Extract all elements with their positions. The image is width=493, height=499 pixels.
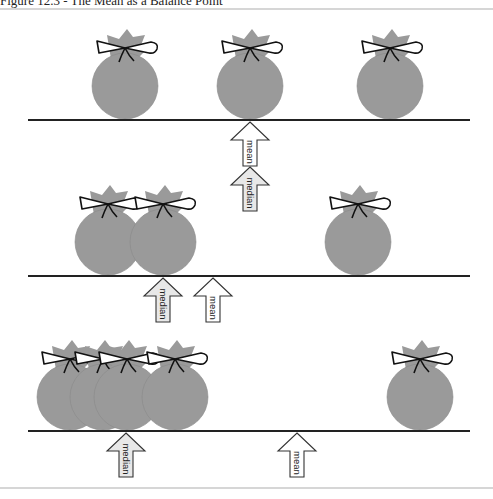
mean-label: mean <box>208 296 219 320</box>
money-bag-icon <box>387 340 453 430</box>
median-label: median <box>121 443 132 474</box>
mean-arrow-icon: mean <box>194 278 232 322</box>
money-bag-icon <box>142 340 208 430</box>
median-label: median <box>158 288 169 319</box>
median-arrow-icon: median <box>107 433 145 477</box>
mean-label: mean <box>292 451 303 475</box>
money-bag-icon <box>130 185 196 275</box>
median-arrow-icon: median <box>231 167 269 211</box>
money-bag-icon <box>217 29 283 119</box>
mean-label: mean <box>245 140 256 164</box>
mean-arrow-icon: mean <box>231 122 269 166</box>
mean-arrow-icon: mean <box>278 433 316 477</box>
money-bag-icon <box>92 29 158 119</box>
money-bag-icon <box>357 29 423 119</box>
median-arrow-icon: median <box>144 278 182 322</box>
money-bag-icon <box>75 185 141 275</box>
median-label: median <box>245 177 256 208</box>
money-bag-icon <box>325 185 391 275</box>
balance-diagram: meanmedianmedianmeanmedianmean <box>0 0 493 499</box>
